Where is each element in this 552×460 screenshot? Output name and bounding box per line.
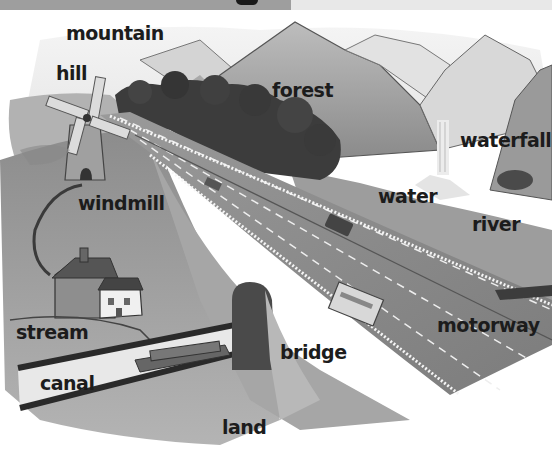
label-motorway: motorway [437, 316, 540, 335]
label-mountain: mountain [66, 24, 164, 43]
label-land: land [222, 418, 266, 437]
label-windmill: windmill [78, 194, 165, 213]
label-forest: forest [272, 81, 333, 100]
label-waterfall: waterfall [460, 131, 551, 150]
label-river: river [472, 215, 520, 234]
label-bridge: bridge [280, 343, 347, 362]
label-canal: canal [40, 374, 94, 393]
label-hill: hill [56, 64, 87, 83]
label-water: water [378, 187, 437, 206]
label-stream: stream [16, 323, 88, 342]
